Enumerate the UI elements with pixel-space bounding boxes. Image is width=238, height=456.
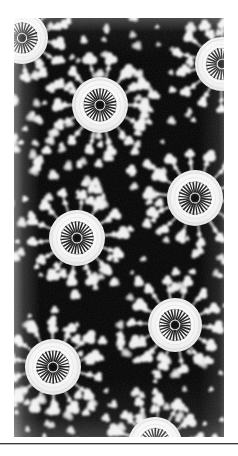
lace-photograph-plate xyxy=(14,18,224,437)
document-page xyxy=(0,0,238,456)
motif-mid-right xyxy=(167,170,223,226)
motif-lower-right xyxy=(148,298,202,352)
motif-mid-left xyxy=(49,210,105,266)
motif-upper-center xyxy=(72,77,128,133)
lace-pattern-graphic xyxy=(14,18,224,437)
motif-lower-left xyxy=(25,339,81,395)
footer-horizontal-rule-highlight xyxy=(0,444,238,445)
